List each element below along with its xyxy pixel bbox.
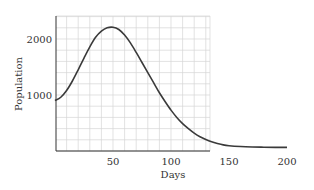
population-line-chart: 50100150200 10002000 Days Population (0, 0, 314, 190)
x-tick: 100 (161, 156, 180, 167)
y-tick-labels: 10002000 (27, 34, 52, 101)
x-tick: 150 (219, 156, 238, 167)
x-tick: 50 (107, 156, 120, 167)
x-tick: 200 (277, 156, 296, 167)
x-tick-labels: 50100150200 (107, 156, 297, 167)
x-axis-label: Days (161, 169, 186, 180)
grid-lines (56, 16, 210, 151)
y-tick: 1000 (27, 90, 52, 101)
y-axis-label: Population (13, 56, 24, 111)
y-tick: 2000 (27, 34, 52, 45)
